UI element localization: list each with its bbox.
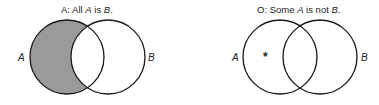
diagram-o-label-a: A	[232, 52, 239, 63]
diagram-o-label-b: B	[361, 52, 368, 63]
circle-a	[243, 20, 317, 94]
asterisk-marker: *	[263, 50, 268, 64]
venn-diagrams	[0, 0, 379, 105]
diagram-a	[30, 20, 145, 94]
diagram-o	[243, 20, 357, 94]
circle-b	[283, 20, 357, 94]
diagram-a-label-b: B	[148, 52, 155, 63]
diagram-a-label-a: A	[18, 52, 25, 63]
